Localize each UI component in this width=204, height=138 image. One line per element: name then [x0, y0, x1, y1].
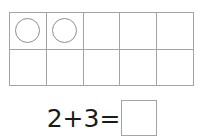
- ten-frame-cell-2[interactable]: [47, 13, 84, 50]
- ten-frame-cell-6[interactable]: [10, 50, 47, 87]
- ten-frame-cell-9[interactable]: [120, 50, 157, 87]
- circle-counter-icon: [52, 18, 77, 43]
- equation-row: 2+3=: [0, 98, 204, 138]
- answer-input-box[interactable]: [121, 100, 157, 136]
- equation-expression: 2+3=: [47, 106, 121, 131]
- ten-frame-cell-8[interactable]: [84, 50, 121, 87]
- ten-frame-cell-10[interactable]: [157, 50, 194, 87]
- ten-frame-cell-1[interactable]: [10, 13, 47, 50]
- ten-frame-cell-4[interactable]: [120, 13, 157, 50]
- ten-frame-cell-3[interactable]: [84, 13, 121, 50]
- circle-counter-icon: [15, 18, 40, 43]
- ten-frame-cell-7[interactable]: [47, 50, 84, 87]
- ten-frame-cell-5[interactable]: [157, 13, 194, 50]
- ten-frame-grid: [9, 12, 194, 86]
